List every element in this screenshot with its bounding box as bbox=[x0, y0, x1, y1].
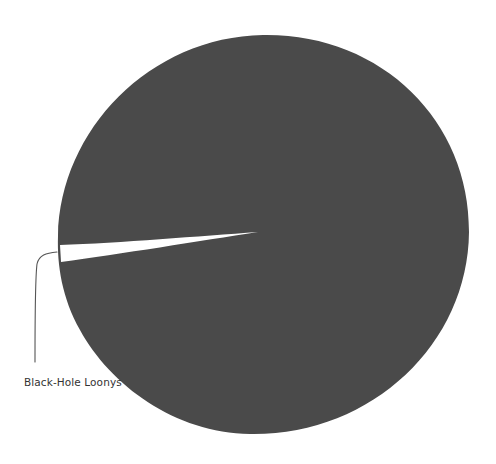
slice-label-black-hole-loonys: Black-Hole Loonys bbox=[24, 376, 122, 388]
pie-slice-main bbox=[58, 35, 469, 434]
pie-chart bbox=[0, 0, 496, 464]
leader-line bbox=[35, 252, 57, 362]
